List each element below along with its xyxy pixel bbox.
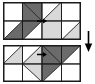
arrow-down-icon — [82, 30, 95, 54]
cell-r0c0-white — [3, 2, 23, 21]
cell-r1c2-light — [42, 21, 62, 40]
cell-r1c0-white — [3, 64, 23, 82]
result-pattern-panel — [3, 45, 81, 82]
transform-arrow — [82, 30, 95, 54]
result-pattern-svg — [3, 45, 81, 82]
source-pattern-panel — [3, 2, 81, 40]
source-pattern-svg — [3, 2, 81, 40]
cell-r1c3-white — [62, 64, 82, 82]
figure-canvas — [0, 0, 95, 84]
cell-r0c3-white — [62, 2, 82, 21]
